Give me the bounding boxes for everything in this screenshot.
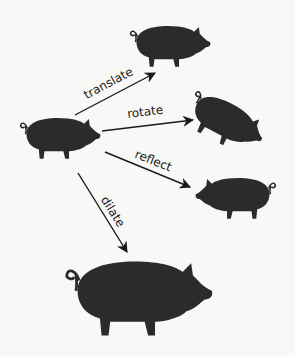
pig-rotated-icon — [180, 87, 269, 160]
arrow-rotate — [102, 120, 193, 131]
pig-reflected-icon — [196, 178, 276, 219]
pig-translated-icon — [131, 26, 211, 67]
pig-original-icon — [21, 118, 101, 159]
pig-dilated-icon — [67, 262, 212, 336]
transformations-diagram — [0, 0, 295, 356]
